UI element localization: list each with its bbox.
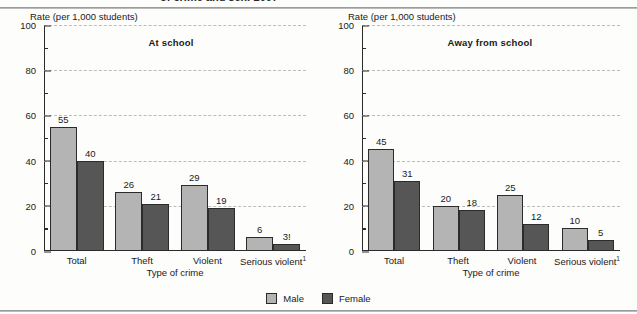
bar-value-label: 19 (216, 195, 227, 206)
bar-groups-away-from-school: 45 31 20 18 25 (362, 25, 620, 251)
y-tick-60-left: 60 (25, 110, 44, 121)
bar-male-serious-violent-at-school[interactable]: 6 (246, 237, 273, 251)
bar-value-label: 31 (402, 168, 413, 179)
bar-female-total-away[interactable]: 31 (394, 181, 420, 251)
bar-female-total-at-school[interactable]: 40 (77, 161, 104, 251)
plot-area-at-school: 100 80 60 40 20 0 55 40 (44, 25, 306, 251)
x-label-total: Total (362, 255, 426, 267)
bar-male-total-at-school[interactable]: 55 (50, 127, 77, 251)
y-tick-20-right: 20 (343, 200, 362, 211)
x-axis-title-right: Type of crime (362, 267, 620, 278)
x-label-violent: Violent (490, 255, 554, 267)
x-label-theft: Theft (426, 255, 490, 267)
panel-away-from-school: Rate (per 1,000 students) Away from scho… (322, 11, 634, 279)
bar-male-violent-away[interactable]: 25 (497, 195, 523, 252)
bar-group-serious-violent-away: 10 5 (556, 25, 621, 251)
y-tick-40-right: 40 (343, 155, 362, 166)
bar-value-label: 26 (123, 179, 134, 190)
bar-female-serious-violent-away[interactable]: 5 (588, 240, 614, 251)
bar-group-theft-away: 20 18 (427, 25, 492, 251)
chart-figure: of crime and sex: 2007 Rate (per 1,000 s… (0, 0, 637, 314)
bar-female-serious-violent-at-school[interactable]: 3! (273, 244, 300, 251)
bar-female-violent-at-school[interactable]: 19 (208, 208, 235, 251)
bar-group-violent-away: 25 12 (491, 25, 556, 251)
y-tick-0-left: 0 (31, 246, 44, 257)
panel-at-school: Rate (per 1,000 students) At school 100 … (4, 11, 318, 279)
bar-group-theft-at-school: 26 21 (110, 25, 176, 251)
bar-value-label: 12 (531, 211, 542, 222)
figure-title-cutoff: of crime and sex: 2007 (0, 0, 637, 7)
bar-group-serious-violent-at-school: 6 3! (241, 25, 307, 251)
x-category-labels-at-school: Total Theft Violent Serious violent1 (44, 255, 306, 267)
y-tick-100-right: 100 (338, 20, 362, 31)
x-label-total: Total (44, 255, 109, 267)
bar-value-label: 5 (598, 227, 603, 238)
bar-value-label: 10 (569, 215, 580, 226)
x-label-theft: Theft (109, 255, 174, 267)
y-tick-40-left: 40 (25, 155, 44, 166)
bar-group-total-away: 45 31 (362, 25, 427, 251)
bar-male-serious-violent-away[interactable]: 10 (562, 228, 588, 251)
bar-group-violent-at-school: 29 19 (175, 25, 241, 251)
bar-male-theft-away[interactable]: 20 (433, 206, 459, 251)
y-tick-20-left: 20 (25, 200, 44, 211)
bar-male-total-away[interactable]: 45 (368, 149, 394, 251)
male-swatch-icon (266, 293, 277, 304)
figure-title-text: of crime and sex: 2007 (160, 0, 278, 3)
x-label-violent: Violent (175, 255, 240, 267)
y-tick-0-right: 0 (349, 246, 362, 257)
x-axis-title-left: Type of crime (44, 267, 306, 278)
bar-female-violent-away[interactable]: 12 (523, 224, 549, 251)
bar-value-label: 29 (189, 172, 200, 183)
bottom-divider (0, 310, 637, 312)
female-swatch-icon (322, 293, 333, 304)
x-label-serious-violent: Serious violent1 (240, 255, 306, 267)
bar-female-theft-away[interactable]: 18 (459, 210, 485, 251)
legend-item-female[interactable]: Female (322, 293, 371, 304)
y-tick-60-right: 60 (343, 110, 362, 121)
bar-groups-at-school: 55 40 26 21 29 (44, 25, 306, 251)
bar-value-label: 6 (257, 224, 262, 235)
y-tick-80-right: 80 (343, 65, 362, 76)
bar-male-theft-at-school[interactable]: 26 (115, 192, 142, 251)
y-axis-title-left: Rate (per 1,000 students) (30, 11, 138, 22)
x-category-labels-away: Total Theft Violent Serious violent1 (362, 255, 620, 267)
bar-value-label: 40 (85, 148, 96, 159)
y-axis-title-right: Rate (per 1,000 students) (348, 11, 456, 22)
bar-value-label: 20 (440, 193, 451, 204)
bar-value-label: 21 (150, 191, 161, 202)
y-tick-100-left: 100 (20, 20, 44, 31)
x-label-serious-violent: Serious violent1 (554, 255, 620, 267)
bar-value-label: 25 (505, 182, 516, 193)
bar-female-theft-at-school[interactable]: 21 (142, 204, 169, 251)
legend-label-male: Male (283, 293, 304, 304)
bar-male-violent-at-school[interactable]: 29 (181, 185, 208, 251)
bar-group-total-at-school: 55 40 (44, 25, 110, 251)
chart-legend: Male Female (0, 293, 637, 304)
bar-value-label: 18 (466, 197, 477, 208)
legend-label-female: Female (339, 293, 371, 304)
y-tick-80-left: 80 (25, 65, 44, 76)
bar-value-label: 55 (58, 114, 69, 125)
top-divider (0, 7, 637, 9)
plot-area-away-from-school: 100 80 60 40 20 0 45 31 (362, 25, 620, 251)
bar-value-label: 3! (283, 231, 291, 242)
bar-value-label: 45 (376, 136, 387, 147)
legend-item-male[interactable]: Male (266, 293, 304, 304)
